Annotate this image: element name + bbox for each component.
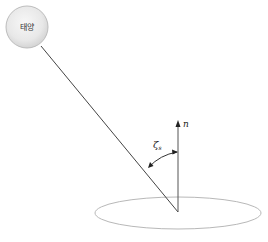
sun-ray-line <box>41 46 178 212</box>
arc-arrowhead-right-icon <box>172 150 178 155</box>
solar-zenith-angle-diagram: 태양 n ζs <box>0 0 268 242</box>
normal-label: n <box>183 119 189 129</box>
normal-arrowhead-icon <box>176 120 181 127</box>
sun-label: 태양 <box>20 23 35 32</box>
zenith-subscript: s <box>158 144 161 151</box>
zenith-angle-label: ζs <box>153 139 162 151</box>
diagram-canvas: 태양 n ζs <box>0 0 268 242</box>
